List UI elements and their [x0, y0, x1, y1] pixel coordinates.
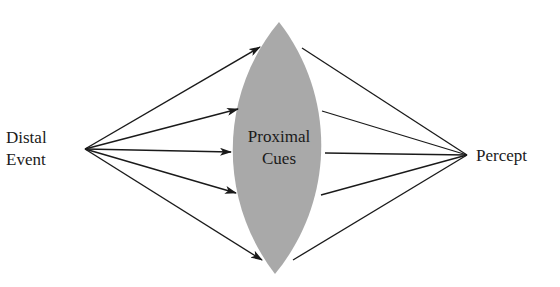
arrow-4 — [85, 149, 236, 193]
proximal-cues-label-line2: Cues — [262, 149, 296, 168]
arrow-2 — [85, 109, 238, 149]
distal-event-label-line2: Event — [6, 150, 46, 169]
percept-label: Percept — [476, 146, 527, 165]
cue-line-2 — [322, 111, 467, 155]
proximal-cues-label-line1: Proximal — [248, 127, 311, 146]
cue-line-4 — [321, 155, 467, 195]
distal-event-label-line1: Distal — [6, 128, 47, 147]
arrow-3 — [85, 149, 231, 152]
cue-line-3 — [325, 153, 467, 155]
proximal-cues-lens — [233, 22, 322, 274]
cue-line-1 — [302, 48, 467, 155]
lens-model-diagram: Distal Event Proximal Cues Percept — [0, 0, 560, 287]
